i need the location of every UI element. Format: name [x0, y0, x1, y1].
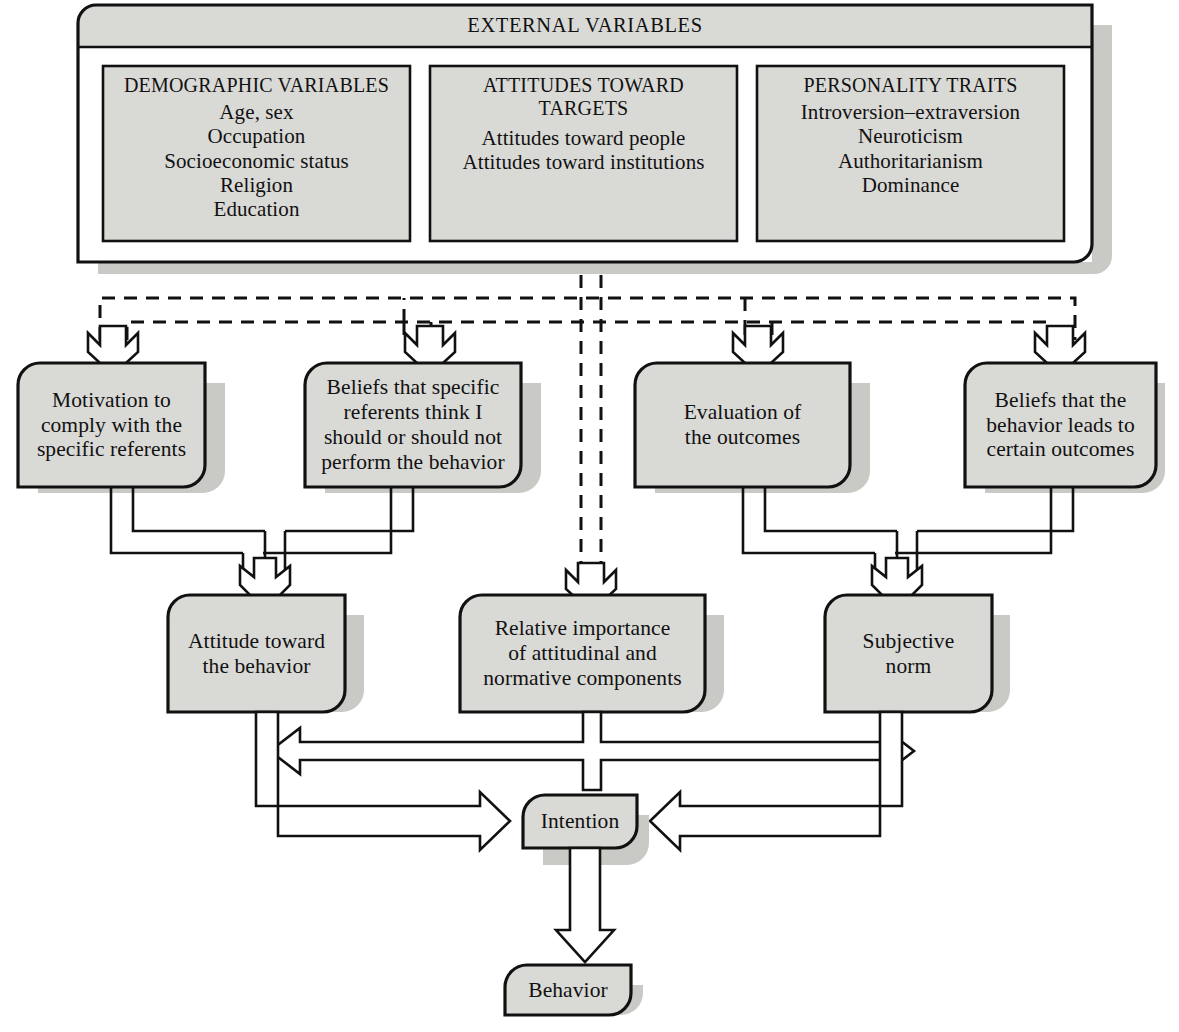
dashed-arrowheads: [88, 326, 1085, 612]
diagram-canvas: .fill{fill:#d9d9d6;} .shadow{fill:#c9c9c…: [0, 0, 1179, 1032]
diagram-artwork: .fill{fill:#d9d9d6;} .shadow{fill:#c9c9c…: [0, 0, 1179, 1032]
behavior-node: [505, 965, 643, 1015]
external-variables-panels: [103, 66, 1064, 241]
connector-left-group: [111, 487, 413, 610]
intention-to-behavior-arrow: [556, 848, 614, 962]
connector-right-group: [743, 487, 1073, 610]
dashed-bus: [100, 275, 1075, 588]
belief-row: [18, 363, 1165, 493]
component-row: [168, 595, 1010, 712]
relative-importance-double-arrow: [270, 712, 914, 790]
